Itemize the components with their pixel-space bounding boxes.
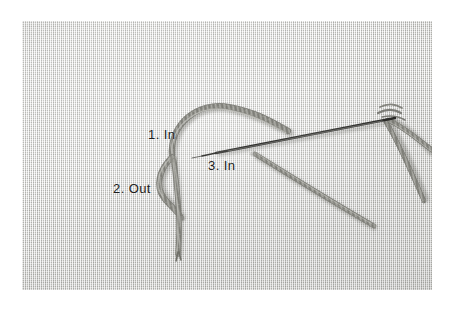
label-step-2-out: 2. Out xyxy=(113,181,151,196)
sewing-needle xyxy=(192,118,396,158)
embroidery-photo: 1. In 2. Out 3. In xyxy=(22,21,432,290)
stitch-illustration-layer xyxy=(22,21,432,290)
label-step-1-in: 1. In xyxy=(148,127,175,142)
label-step-3-in: 3. In xyxy=(208,158,235,173)
thread-trailing-right xyxy=(255,153,374,226)
faint-caption-strip xyxy=(230,294,380,308)
screenshot-root: 1. In 2. Out 3. In xyxy=(0,0,455,316)
